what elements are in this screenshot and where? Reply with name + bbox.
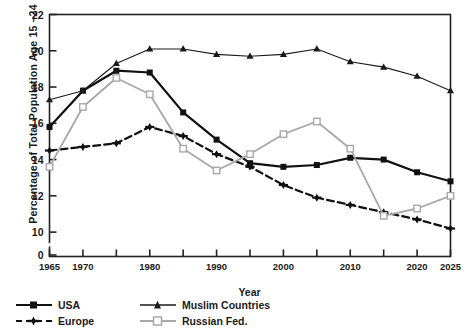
legend-label-muslim-countries: Muslim Countries (182, 298, 270, 312)
series-russian-fed- (46, 75, 453, 219)
legend-swatch-europe (14, 314, 54, 328)
legend-swatch-russian-fed (138, 314, 178, 328)
legend-label-europe: Europe (58, 314, 94, 328)
series-europe (45, 123, 455, 233)
chart-legend: USA Europe Muslim Countries Russian Fed. (14, 298, 344, 330)
legend-swatch-muslim-countries (138, 298, 178, 312)
legend-label-russian-fed: Russian Fed. (182, 314, 247, 328)
series-muslim-countries (46, 45, 454, 102)
legend-swatch-usa (14, 298, 54, 312)
legend-label-usa: USA (58, 298, 80, 312)
plot-frame (50, 15, 451, 257)
